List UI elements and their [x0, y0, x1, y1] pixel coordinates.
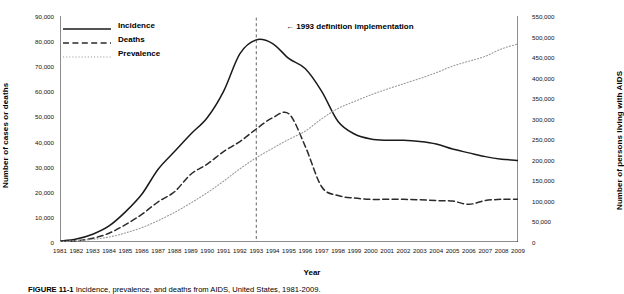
x-tick-label: 2008 — [495, 247, 509, 254]
x-tick-label: 1983 — [86, 247, 100, 254]
x-tick-label: 1994 — [266, 247, 280, 254]
x-tick-label: 2009 — [511, 247, 525, 254]
x-tick-label: 2000 — [364, 247, 378, 254]
y-tick-label-right: 350,000 — [532, 95, 572, 102]
y-tick-label-right: 550,000 — [532, 13, 572, 20]
annotation-arrow-icon: ← — [286, 22, 294, 31]
y-tick-label-left: 0 — [14, 239, 54, 246]
y-tick-label-right: 450,000 — [532, 54, 572, 61]
x-tick-label: 2005 — [446, 247, 460, 254]
y-tick-label-left: 70,000 — [14, 63, 54, 70]
y-tick-label-right: 250,000 — [532, 136, 572, 143]
y-tick-label-right: 200,000 — [532, 156, 572, 163]
x-tick-label: 1990 — [200, 247, 214, 254]
legend-label: Incidence — [118, 21, 155, 30]
x-tick-label: 1996 — [298, 247, 312, 254]
x-tick-label: 1988 — [168, 247, 182, 254]
x-tick-label: 2006 — [462, 247, 476, 254]
y-tick-label-right: 50,000 — [532, 218, 572, 225]
x-tick-label: 1992 — [233, 247, 247, 254]
figure-caption: FIGURE 11-1 Incidence, prevalence, and d… — [28, 285, 608, 294]
y-axis-title-left: Number of cases or deaths — [1, 50, 10, 220]
series-line-deaths — [60, 112, 518, 242]
x-tick-label: 1984 — [102, 247, 116, 254]
x-tick-label: 2001 — [380, 247, 394, 254]
chart-legend: IncidenceDeathsPrevalence — [62, 18, 160, 60]
x-tick-label: 2007 — [478, 247, 492, 254]
y-tick-label-left: 30,000 — [14, 163, 54, 170]
x-tick-label: 2004 — [429, 247, 443, 254]
legend-label: Deaths — [118, 35, 145, 44]
y-tick-label-right: 0 — [532, 239, 572, 246]
y-tick-label-left: 60,000 — [14, 88, 54, 95]
figure-caption-text: Incidence, prevalence, and deaths from A… — [76, 285, 321, 294]
legend-swatch-solid — [62, 20, 112, 30]
figure-aids-incidence-prevalence-deaths: Number of cases or deaths Number of pers… — [0, 0, 624, 294]
legend-item-prevalence: Prevalence — [62, 46, 160, 60]
x-tick-label: 1998 — [331, 247, 345, 254]
y-axis-title-right: Number of persons living with AIDS — [615, 40, 624, 240]
legend-label: Prevalence — [118, 49, 160, 58]
x-tick-label: 1991 — [217, 247, 231, 254]
figure-caption-label: FIGURE 11-1 — [28, 285, 74, 294]
x-tick-label: 1985 — [119, 247, 133, 254]
y-tick-label-right: 100,000 — [532, 197, 572, 204]
series-line-incidence — [60, 39, 518, 241]
x-tick-label: 1993 — [249, 247, 263, 254]
x-tick-label: 2002 — [397, 247, 411, 254]
x-tick-label: 1989 — [184, 247, 198, 254]
y-tick-label-right: 300,000 — [532, 115, 572, 122]
x-tick-label: 1987 — [151, 247, 165, 254]
x-tick-label: 1999 — [348, 247, 362, 254]
y-tick-label-left: 80,000 — [14, 38, 54, 45]
y-tick-label-left: 50,000 — [14, 113, 54, 120]
legend-item-incidence: Incidence — [62, 18, 160, 32]
y-tick-label-left: 10,000 — [14, 213, 54, 220]
y-tick-label-right: 150,000 — [532, 177, 572, 184]
x-tick-label: 1981 — [53, 247, 67, 254]
x-tick-label: 2003 — [413, 247, 427, 254]
legend-swatch-dotted — [62, 48, 112, 58]
y-tick-label-right: 400,000 — [532, 74, 572, 81]
annotation-1993-definition: ← 1993 definition implementation — [286, 22, 414, 31]
x-axis-title: Year — [0, 268, 624, 277]
y-tick-label-left: 40,000 — [14, 138, 54, 145]
y-tick-label-right: 500,000 — [532, 33, 572, 40]
legend-item-deaths: Deaths — [62, 32, 160, 46]
x-tick-label: 1982 — [69, 247, 83, 254]
x-tick-label: 1997 — [315, 247, 329, 254]
x-tick-label: 1995 — [282, 247, 296, 254]
y-tick-label-left: 20,000 — [14, 188, 54, 195]
y-tick-label-left: 90,000 — [14, 13, 54, 20]
annotation-label: 1993 definition implementation — [296, 22, 413, 31]
series-line-prevalence — [60, 44, 518, 242]
legend-swatch-dashed — [62, 34, 112, 44]
x-tick-label: 1986 — [135, 247, 149, 254]
